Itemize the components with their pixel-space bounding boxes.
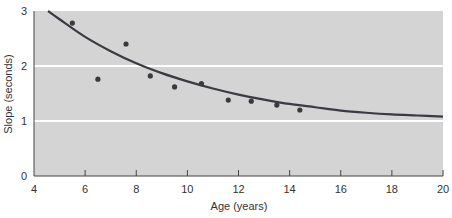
data-point — [148, 73, 153, 78]
y-axis-ticks: 0123 — [21, 5, 27, 182]
chart: 468101214161820 0123 Age (years) Slope (… — [0, 0, 452, 218]
x-tick-label: 6 — [82, 183, 88, 195]
data-point — [249, 99, 254, 104]
x-tick-label: 10 — [181, 183, 193, 195]
y-tick-label: 1 — [21, 115, 27, 127]
x-axis-label: Age (years) — [211, 200, 268, 212]
x-tick-label: 14 — [284, 183, 296, 195]
x-tick-label: 18 — [386, 183, 398, 195]
y-tick-label: 2 — [21, 60, 27, 72]
x-tick-label: 8 — [133, 183, 139, 195]
data-point — [95, 77, 100, 82]
y-tick-label: 3 — [21, 5, 27, 17]
data-point — [123, 41, 128, 46]
data-point — [297, 107, 302, 112]
data-point — [274, 102, 279, 107]
x-tick-label: 12 — [232, 183, 244, 195]
x-tick-label: 20 — [437, 183, 449, 195]
data-point — [172, 84, 177, 89]
x-tick-label: 4 — [31, 183, 37, 195]
data-point — [199, 81, 204, 86]
x-tick-label: 16 — [335, 183, 347, 195]
data-point — [70, 21, 75, 26]
data-point — [226, 98, 231, 103]
y-tick-label: 0 — [21, 170, 27, 182]
y-axis-label: Slope (seconds) — [2, 54, 14, 134]
